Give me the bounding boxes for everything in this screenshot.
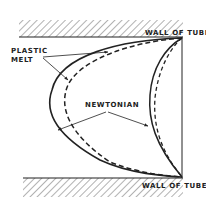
- newtonian-arrow-left: [58, 112, 106, 130]
- wall-of-tube-top-label: WALL OF TUBE: [145, 29, 206, 37]
- newtonian-profile-small: [155, 38, 182, 177]
- plastic-label-line2: MELT: [11, 56, 33, 64]
- wall-of-tube-bottom-label: WALL OF TUBE: [142, 182, 206, 190]
- newtonian-label: NEWTONIAN: [85, 101, 139, 109]
- newtonian-arrow-right: [108, 112, 148, 126]
- plastic-arrow-upper: [43, 52, 108, 57]
- plastic-melt-profile-small: [150, 38, 182, 177]
- flow-profile-diagram: WALL OF TUBE WALL OF TUBE PLASTIC MELT N…: [0, 0, 206, 203]
- plastic-label-line1: PLASTIC: [11, 47, 48, 55]
